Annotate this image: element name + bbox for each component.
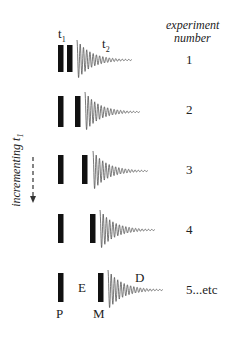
t2-label: t2 bbox=[102, 36, 110, 54]
experiment-number-1: 1 bbox=[186, 52, 193, 68]
pulse-2 bbox=[98, 273, 104, 302]
experiment-rows bbox=[58, 40, 163, 308]
pulse-2 bbox=[82, 155, 88, 184]
increment-arrow bbox=[30, 157, 36, 203]
pulse-1 bbox=[58, 155, 64, 184]
experiment-row-3 bbox=[58, 151, 148, 189]
preparation-label: P bbox=[56, 306, 63, 322]
fid-signal bbox=[93, 151, 148, 189]
experiment-row-1 bbox=[58, 40, 132, 78]
experiment-row-4 bbox=[58, 210, 155, 248]
incrementing-t1-label: incrementing t1 bbox=[9, 125, 25, 215]
experiment-number-2: 2 bbox=[186, 102, 193, 118]
experiment-number-5: 5...etc bbox=[186, 282, 217, 298]
pulse-2 bbox=[90, 214, 96, 243]
pulse-1 bbox=[58, 96, 64, 127]
detection-label: D bbox=[135, 270, 144, 286]
experiment-row-5 bbox=[58, 270, 163, 308]
experiment-row-2 bbox=[58, 92, 140, 130]
pulse-1 bbox=[58, 273, 64, 302]
column-title-line2: number bbox=[174, 31, 211, 46]
mixing-label: M bbox=[93, 306, 105, 322]
pulse-2 bbox=[67, 45, 73, 72]
pulse-1 bbox=[58, 214, 64, 243]
experiment-number-4: 4 bbox=[186, 222, 193, 238]
fid-signal bbox=[100, 210, 155, 248]
pulse-2 bbox=[75, 96, 81, 127]
t1-label: t1 bbox=[58, 26, 66, 44]
pulse-1 bbox=[58, 45, 64, 72]
experiment-number-3: 3 bbox=[186, 162, 193, 178]
fid-signal bbox=[85, 92, 140, 130]
evolution-label: E bbox=[78, 280, 86, 296]
